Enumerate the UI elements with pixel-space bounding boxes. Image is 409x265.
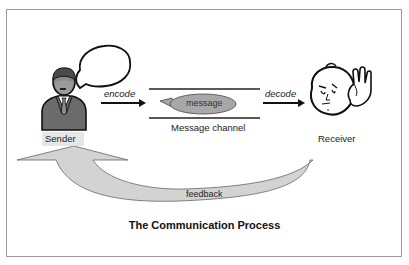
- channel-label: Message channel: [171, 122, 245, 133]
- decode-arrow: [263, 99, 305, 107]
- sender-label: Sender: [45, 133, 76, 144]
- listening-face-icon: [311, 63, 371, 114]
- feedback-arrow: [17, 146, 313, 201]
- encode-label: encode: [104, 88, 135, 99]
- feedback-label: feedback: [186, 189, 223, 199]
- diagram-title: The Communication Process: [0, 219, 409, 231]
- decode-label: decode: [265, 88, 296, 99]
- receiver-label: Receiver: [318, 133, 356, 144]
- encode-arrow: [101, 99, 146, 107]
- speech-bubble-icon: [76, 46, 130, 88]
- message-label: message: [186, 98, 223, 108]
